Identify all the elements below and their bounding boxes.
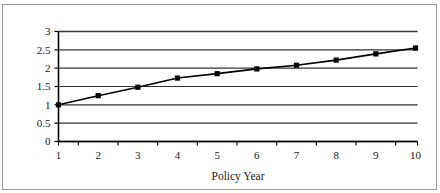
y-tick-label-0.5: 0.5 — [37, 117, 51, 129]
data-point-marker — [96, 93, 101, 98]
y-axis-tick-labels-group: 00.511.522.53 — [37, 25, 51, 147]
chart-figure: 00.511.522.53 12345678910 Policy Year — [0, 0, 440, 193]
x-tick-label-3: 3 — [135, 149, 141, 161]
gridlines-group — [59, 32, 418, 142]
y-tick-label-3: 3 — [45, 25, 51, 37]
y-tick-label-2.5: 2.5 — [37, 44, 51, 56]
data-point-marker — [175, 75, 180, 80]
x-tick-label-10: 10 — [410, 149, 422, 161]
data-point-marker — [254, 66, 259, 71]
data-point-marker — [413, 45, 418, 50]
data-point-marker — [294, 63, 299, 68]
data-point-marker — [135, 85, 140, 90]
data-series-markers-group — [56, 45, 418, 107]
x-tick-label-2: 2 — [95, 149, 101, 161]
x-axis-title: Policy Year — [211, 170, 264, 183]
data-point-marker — [334, 58, 339, 63]
x-tick-label-8: 8 — [333, 149, 339, 161]
x-tick-label-4: 4 — [175, 149, 181, 161]
data-point-marker — [56, 102, 61, 107]
y-tick-label-0: 0 — [45, 135, 51, 147]
y-tick-label-2: 2 — [45, 62, 51, 74]
data-point-marker — [215, 71, 220, 76]
x-tick-label-5: 5 — [214, 149, 220, 161]
data-point-marker — [373, 51, 378, 56]
y-tick-label-1.5: 1.5 — [37, 80, 51, 92]
x-tick-label-6: 6 — [254, 149, 260, 161]
data-series-line-group — [59, 48, 416, 105]
x-axis-tick-labels-group: 12345678910 — [56, 149, 422, 161]
y-tick-label-1: 1 — [45, 99, 51, 111]
x-tick-label-7: 7 — [294, 149, 300, 161]
line-chart-plot: 00.511.522.53 12345678910 Policy Year — [0, 0, 440, 193]
x-tick-label-1: 1 — [56, 149, 62, 161]
data-series-line — [59, 48, 416, 105]
x-tick-label-9: 9 — [373, 149, 379, 161]
